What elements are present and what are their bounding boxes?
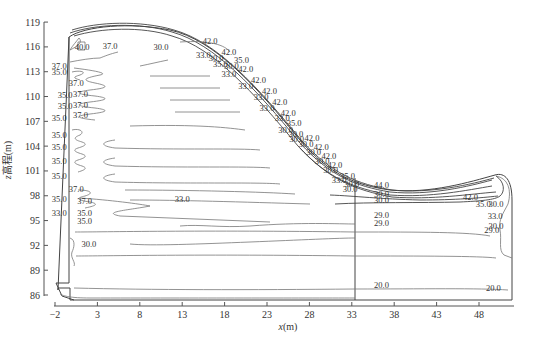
- contour-label: 35.0: [52, 194, 67, 204]
- contour-label: 20.0: [486, 283, 501, 293]
- contour-label: 37.0: [77, 196, 92, 206]
- x-tick-label: 48: [474, 309, 484, 320]
- contour-label: 35.0: [52, 156, 67, 166]
- contour-label: 37.0: [73, 100, 88, 110]
- x-tick-label: 23: [262, 309, 272, 320]
- contour-label: 42.0: [203, 36, 218, 46]
- contour-labels: 40.037.030.042.033.030.042.035.035.030.0…: [52, 36, 504, 293]
- contour-label: 35.0: [77, 216, 92, 226]
- x-tick-label: 3: [95, 309, 100, 320]
- contour-label: 33.0: [175, 194, 190, 204]
- contour-label: 29.0: [484, 225, 499, 235]
- y-tick-label: 110: [25, 91, 40, 102]
- contour-label: 35.0: [52, 113, 67, 123]
- y-tick-label: 95: [30, 215, 40, 226]
- x-axis-label: x(m): [278, 321, 298, 333]
- contour-label: 29.0: [374, 218, 389, 228]
- contour-plot: 8689929598101104107110113116119 −2381318…: [0, 0, 534, 345]
- y-axis-label: z高程(m): [1, 141, 14, 180]
- contour-label: 30.0: [323, 165, 338, 175]
- contour-label: 37.0: [103, 41, 118, 51]
- contour-label: 20.0: [374, 280, 389, 290]
- contour-label: 42.0: [272, 97, 287, 107]
- y-tick-label: 113: [25, 66, 40, 77]
- interior-contours: [60, 38, 508, 298]
- x-tick-label: 8: [137, 309, 142, 320]
- x-tick-label: 13: [177, 309, 187, 320]
- contour-label: 35.0: [58, 90, 73, 100]
- contour-label: 42.0: [238, 64, 253, 74]
- contour-label: 33.0: [254, 92, 269, 102]
- x-tick-label: 18: [220, 309, 230, 320]
- contour-label: 30.0: [154, 42, 169, 52]
- y-tick-label: 89: [30, 265, 40, 276]
- contour-label: 30.0: [81, 239, 96, 249]
- contour-label: 30.0: [489, 199, 504, 209]
- contour-label: 33.0: [238, 81, 253, 91]
- contour-label: 35.0: [58, 101, 73, 111]
- contour-label: 35.0: [52, 67, 67, 77]
- contour-label: 40.0: [75, 42, 90, 52]
- y-axis: 8689929598101104107110113116119: [25, 17, 48, 301]
- x-axis: −2381318232833384348: [50, 302, 514, 320]
- contour-label: 37.0: [73, 89, 88, 99]
- contour-label: 33.0: [221, 69, 236, 79]
- contour-figure: 8689929598101104107110113116119 −2381318…: [0, 0, 534, 345]
- contour-label: 33.0: [260, 103, 275, 113]
- y-tick-label: 107: [25, 116, 40, 127]
- contour-label: 35.0: [52, 142, 67, 152]
- contour-label: 33.0: [52, 208, 67, 218]
- y-tick-label: 101: [25, 165, 40, 176]
- contour-label: 35.0: [52, 130, 67, 140]
- contour-label: 30.0: [374, 195, 389, 205]
- contour-label: 37.0: [69, 184, 84, 194]
- x-tick-label: 38: [389, 309, 399, 320]
- x-tick-label: 28: [304, 309, 314, 320]
- contour-label: 37.0: [73, 110, 88, 120]
- contour-label: 37.0: [69, 78, 84, 88]
- y-tick-label: 119: [25, 17, 40, 28]
- contour-label: 30.0: [343, 184, 358, 194]
- y-tick-label: 98: [30, 190, 40, 201]
- contour-label: 35.0: [52, 171, 67, 181]
- y-tick-label: 86: [30, 290, 40, 301]
- y-tick-label: 116: [25, 41, 40, 52]
- dam-boundary: [56, 23, 512, 300]
- x-tick-label: 33: [347, 309, 357, 320]
- x-tick-label: 43: [432, 309, 442, 320]
- contour-label: 42.0: [251, 75, 266, 85]
- y-tick-label: 104: [25, 141, 40, 152]
- x-tick-label: −2: [50, 309, 61, 320]
- y-tick-label: 92: [30, 240, 40, 251]
- contour-label: 33.0: [488, 211, 503, 221]
